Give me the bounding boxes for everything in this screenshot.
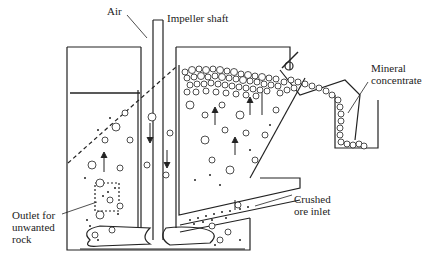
crushed-ore-inlet-label: Crushed ore inlet bbox=[294, 193, 331, 217]
outlet-label: Outlet for unwanted rock bbox=[12, 209, 55, 245]
mineral-concentrate-label: Mineral concentrate bbox=[371, 62, 422, 86]
scraper-pivot bbox=[285, 62, 293, 70]
standpipe bbox=[141, 47, 176, 228]
leader-air bbox=[127, 15, 147, 38]
flow-arrows bbox=[101, 88, 262, 210]
impeller-shaft-label: Impeller shaft bbox=[167, 12, 228, 24]
air-label: Air bbox=[107, 5, 122, 17]
diagram-canvas bbox=[0, 0, 433, 267]
flotation-cell-diagram: Air Impeller shaft Mineral concentrate O… bbox=[0, 0, 433, 267]
impeller-shaft bbox=[153, 20, 163, 240]
froth-boundary bbox=[68, 67, 176, 163]
